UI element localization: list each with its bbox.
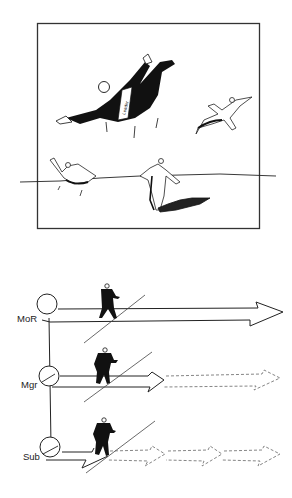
figure-panel: Leader — [0, 0, 292, 498]
leader-figure: Leader — [56, 54, 175, 138]
walker-mor — [99, 284, 120, 319]
illustration: Leader — [0, 0, 292, 498]
walker-mgr — [94, 348, 118, 384]
mor-level — [37, 284, 283, 343]
flying-follower — [196, 97, 252, 134]
sub-level — [40, 418, 280, 473]
mgr-level — [39, 348, 280, 402]
level-label-sub: Sub — [23, 451, 40, 462]
wading-follower — [140, 159, 210, 213]
swimming-follower — [50, 158, 96, 196]
level-label-mgr: Mgr — [21, 379, 37, 390]
walker-sub — [93, 418, 116, 456]
level-label-mor: MoR — [17, 313, 37, 324]
